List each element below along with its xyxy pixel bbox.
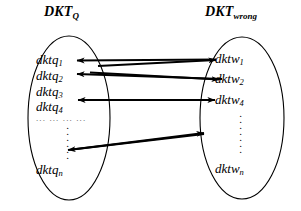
left-set-title: DKTQ [44,4,79,21]
left-element-2: dktq2 [36,68,63,84]
left-element-1-base: dktq [36,52,58,67]
right-element-4: dktw4 [215,92,244,108]
left-element-4-base: dktq [36,99,58,114]
right-element-n: dktwn [215,161,244,177]
right-element-n-base: dktw [215,161,240,176]
left-element-1-subscript: 1 [58,58,62,68]
left-element-n: dktqn [36,162,63,178]
right-set-title: DKTwrong [205,4,257,21]
left-element-3-base: dktq [36,84,58,99]
right-element-2: dktw2 [215,71,244,87]
left-element-n-base: dktq [36,162,58,177]
right-element-1: dktw1 [215,51,244,67]
set-mapping-figure: DKTQ DKTwrong dktq1 dktq2 dktq3 dktq4 ..… [0,0,301,211]
left-set-title-main: DKT [44,4,73,19]
left-element-1: dktq1 [36,52,63,68]
left-element-2-base: dktq [36,68,58,83]
left-vertical-ellipsis: ...... [66,122,69,158]
right-element-1-base: dktw [215,51,240,66]
right-element-1-subscript: 1 [240,57,244,67]
right-element-2-subscript: 2 [240,77,244,87]
right-set-title-main: DKT [205,4,234,19]
mapping-arrow-n-to-right [72,133,204,150]
right-element-4-base: dktw [215,92,240,107]
left-horizontal-ellipsis: ... ... ... ... [36,113,86,123]
left-element-n-subscript: n [58,168,62,178]
right-element-2-base: dktw [215,71,240,86]
left-set-title-subscript: Q [73,11,80,21]
right-vertical-ellipsis: ....... [239,110,242,152]
right-set-title-subscript: wrong [234,11,258,21]
right-element-n-subscript: n [240,167,244,177]
left-element-2-subscript: 2 [58,74,62,84]
left-element-3: dktq3 [36,84,63,100]
